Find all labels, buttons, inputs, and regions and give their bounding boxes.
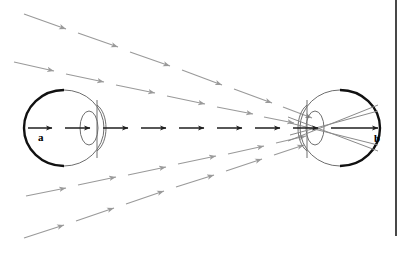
diagram-canvas: a b [0,0,404,257]
ray-diagram-figure: a b [0,0,404,257]
incoming-ray-bundle-lower-outer [24,145,304,238]
refracted-ray-3 [290,123,378,145]
label-a: a [38,131,44,143]
incoming-ray-bundle-upper-inner [14,62,294,123]
label-b: b [374,132,380,144]
incoming-ray-bundle-upper-outer [24,14,312,118]
